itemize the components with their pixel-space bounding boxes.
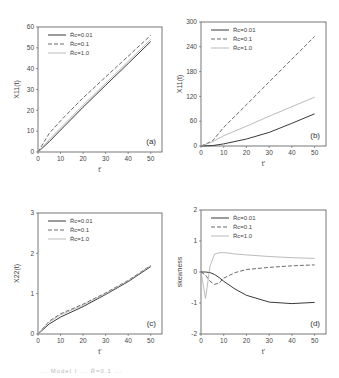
y-tick-label: 120: [186, 93, 197, 100]
x-tick-label: 10: [57, 155, 65, 162]
x-tick-label: 50: [311, 149, 319, 156]
x-tick-label: 10: [57, 337, 65, 344]
y-tick-label: 0: [193, 268, 197, 275]
y-tick-label: 1: [30, 290, 34, 297]
legend-label: R̄c=0.1: [233, 224, 253, 230]
legend-label: R̄c=0.01: [70, 32, 93, 38]
panel-label: (b): [310, 131, 320, 140]
data-series-line: [201, 253, 315, 299]
x-tick-label: 20: [79, 155, 87, 162]
y-tick-label: 3: [30, 209, 34, 216]
panel-label: (d): [310, 319, 320, 328]
x-tick-label: 20: [243, 149, 251, 156]
x-tick-label: 30: [266, 337, 274, 344]
x-tick-label: 40: [125, 155, 133, 162]
panel-label: (c): [147, 319, 157, 328]
x-axis-label: t': [262, 160, 265, 167]
x-tick-label: 30: [102, 155, 110, 162]
x-tick-label: 50: [147, 337, 155, 344]
plot-frame: [38, 27, 162, 152]
x-tick-label: 30: [102, 337, 110, 344]
data-series-line: [201, 114, 315, 146]
y-tick-label: 2: [30, 250, 34, 257]
x-tick-label: 0: [36, 337, 40, 344]
panel-label: (a): [146, 137, 156, 146]
data-series-line: [38, 42, 151, 152]
y-tick-label: 300: [186, 18, 197, 25]
x-tick-label: 30: [266, 149, 274, 156]
data-series-line: [38, 266, 151, 334]
y-tick-label: 10: [27, 127, 35, 134]
x-axis-label: t': [262, 348, 265, 355]
data-series-line: [201, 97, 315, 146]
legend-label: R̄c=0.01: [233, 27, 256, 33]
y-tick-label: 30: [27, 86, 35, 93]
data-series-line: [201, 272, 315, 304]
figure-caption: ... Model I ... R̄=0.1 ...: [40, 368, 123, 374]
legend-label: R̄c=0.01: [233, 215, 256, 221]
x-tick-label: 10: [220, 337, 228, 344]
x-tick-label: 0: [36, 155, 40, 162]
data-series-line: [201, 37, 315, 147]
x-tick-label: 40: [125, 337, 133, 344]
y-axis-label: skewness: [176, 256, 183, 287]
plot-frame: [201, 22, 326, 146]
x-tick-label: 10: [220, 149, 228, 156]
y-axis-label: X22(t): [13, 264, 21, 283]
y-tick-label: -2: [191, 330, 197, 337]
x-axis-label: t': [98, 348, 101, 355]
y-tick-label: 0: [30, 148, 34, 155]
y-tick-label: 0: [30, 330, 34, 337]
legend-label: R̄c=1.0: [70, 236, 90, 242]
y-axis-label: X11(t): [13, 80, 21, 99]
x-tick-label: 0: [199, 149, 203, 156]
plot-frame: [201, 210, 326, 334]
y-tick-label: 2: [193, 206, 197, 213]
x-tick-label: 40: [288, 337, 296, 344]
legend-label: R̄c=0.01: [70, 218, 93, 224]
x-tick-label: 20: [243, 337, 251, 344]
y-tick-label: 0: [193, 142, 197, 149]
y-tick-label: 20: [27, 107, 35, 114]
y-tick-label: 240: [186, 43, 197, 50]
legend-label: R̄c=1.0: [233, 45, 253, 51]
x-tick-label: 50: [147, 155, 155, 162]
y-tick-label: 40: [27, 65, 35, 72]
x-axis-label: t': [98, 166, 101, 173]
legend-label: R̄c=0.1: [233, 36, 253, 42]
x-tick-label: 40: [288, 149, 296, 156]
y-tick-label: -1: [191, 299, 197, 306]
y-tick-label: 60: [27, 23, 35, 30]
legend-label: R̄c=1.0: [70, 50, 90, 56]
plot-frame: [38, 213, 162, 334]
x-tick-label: 0: [199, 337, 203, 344]
x-tick-label: 50: [311, 337, 319, 344]
y-tick-label: 50: [27, 44, 35, 51]
figure-canvas: 010203040500102030405060t'X11(t)R̄c=0.01…: [0, 0, 339, 378]
y-tick-label: 180: [186, 68, 197, 75]
y-tick-label: 1: [193, 237, 197, 244]
x-tick-label: 20: [79, 337, 87, 344]
y-axis-label: X11(t): [176, 75, 184, 94]
legend-label: R̄c=0.1: [70, 227, 90, 233]
y-tick-label: 60: [190, 117, 198, 124]
data-series-line: [201, 265, 315, 285]
legend-label: R̄c=1.0: [233, 233, 253, 239]
legend-label: R̄c=0.1: [70, 41, 90, 47]
